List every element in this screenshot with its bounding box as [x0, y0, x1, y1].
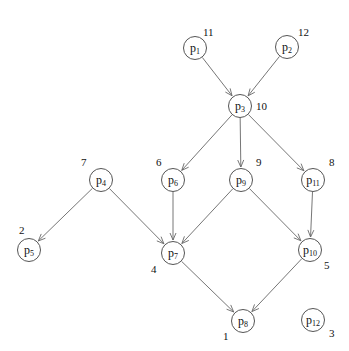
node-p1: p1 [183, 36, 207, 60]
node-p10: p10 [298, 238, 322, 262]
node-subscript: 9 [242, 179, 246, 188]
node-subscript: 4 [102, 179, 106, 188]
edge-p11-p10 [308, 192, 314, 237]
node-subscript: 1 [196, 47, 200, 56]
node-label: p3 [235, 99, 245, 114]
node-label: p11 [306, 173, 320, 188]
edge-p9-p7 [182, 189, 233, 244]
node-subscript: 11 [312, 179, 320, 188]
node-number-p8: 1 [223, 330, 229, 342]
node-label: p8 [238, 314, 248, 329]
node-number-p2: 12 [298, 26, 309, 38]
node-number-p10: 5 [324, 259, 330, 271]
edge-p3-p9 [238, 118, 244, 167]
node-number-p3: 10 [256, 100, 267, 112]
edge-p1-p3 [202, 57, 232, 95]
node-number-p1: 11 [203, 26, 214, 38]
node-number-p12: 3 [329, 327, 335, 339]
node-p5: p5 [17, 238, 41, 262]
node-label: p9 [236, 173, 246, 188]
node-subscript: 6 [174, 179, 178, 188]
node-number-p5: 2 [19, 224, 25, 236]
edge-p4-p5 [38, 188, 92, 241]
node-subscript: 12 [312, 319, 320, 328]
node-p4: p4 [89, 168, 113, 192]
node-label: p2 [282, 40, 292, 55]
edge-p7-p8 [182, 261, 234, 312]
node-p3: p3 [228, 94, 252, 118]
node-subscript: 8 [244, 320, 248, 329]
node-number-p9: 9 [256, 156, 262, 168]
node-number-p4: 7 [81, 156, 87, 168]
node-number-p7: 4 [151, 263, 157, 275]
edge-p2-p3 [248, 56, 279, 95]
node-p6: p6 [161, 168, 185, 192]
node-label: p7 [168, 246, 178, 261]
node-label: p6 [168, 173, 178, 188]
node-number-p11: 8 [329, 156, 335, 168]
node-subscript: 3 [241, 105, 245, 114]
node-p12: p12 [301, 308, 325, 332]
node-subscript: 10 [309, 249, 317, 258]
edge-p3-p6 [182, 115, 232, 170]
edge-p4-p7 [109, 189, 163, 244]
edge-p10-p8 [252, 259, 302, 312]
node-label: p1 [190, 41, 200, 56]
node-label: p5 [24, 243, 34, 258]
node-subscript: 5 [30, 249, 34, 258]
node-subscript: 7 [174, 252, 178, 261]
graph-canvas: p111p212p310p47p52p66p74p81p99p105p118p1… [0, 0, 349, 351]
node-label: p12 [306, 313, 320, 328]
node-label: p4 [96, 173, 106, 188]
edge-p6-p7 [170, 192, 176, 240]
node-p11: p11 [301, 168, 325, 192]
node-p9: p9 [229, 168, 253, 192]
node-p8: p8 [231, 309, 255, 333]
node-label: p10 [303, 243, 317, 258]
node-p7: p7 [161, 241, 185, 265]
node-subscript: 2 [288, 46, 292, 55]
node-p2: p2 [275, 35, 299, 59]
edge-p9-p10 [249, 189, 300, 241]
node-number-p6: 6 [156, 156, 162, 168]
